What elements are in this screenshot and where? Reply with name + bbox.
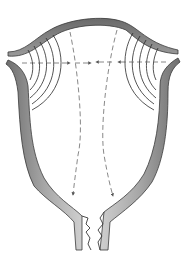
right-wall xyxy=(100,58,180,250)
fundus-wall xyxy=(8,18,178,56)
vertical-force-arrows xyxy=(70,30,117,196)
diagram-svg xyxy=(0,0,185,256)
left-wall xyxy=(6,60,82,250)
uterus-diagram xyxy=(0,0,185,256)
horizontal-force-arrows xyxy=(22,62,166,63)
